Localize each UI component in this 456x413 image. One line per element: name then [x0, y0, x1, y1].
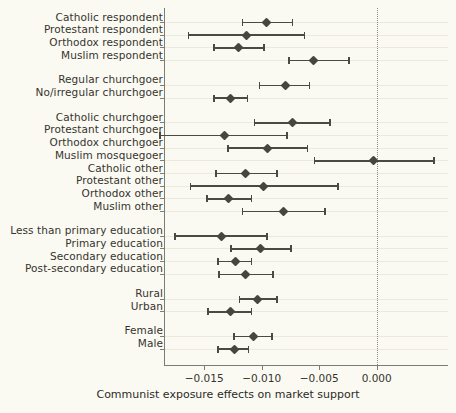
category-label: Regular churchgoer [58, 74, 163, 85]
category-label: Protestant other [76, 175, 163, 186]
point-estimate-marker [287, 118, 297, 128]
category-label: Post-secondary education [25, 263, 163, 274]
ci-cap-high [251, 258, 253, 265]
ci-cap-low [242, 19, 244, 26]
estimate-row [164, 299, 448, 300]
ci-cap-low [188, 32, 190, 39]
category-label: No/irregular churchgoer [36, 87, 164, 98]
ci-cap-low [174, 233, 176, 240]
point-estimate-marker [278, 207, 288, 217]
ci-cap-high [247, 95, 249, 102]
estimate-row [164, 249, 448, 250]
ci-cap-high [304, 32, 306, 39]
point-estimate-marker [249, 332, 259, 342]
ci-cap-low [213, 44, 215, 51]
x-axis-label: Communist exposure effects on market sup… [0, 388, 456, 401]
estimate-row [164, 61, 448, 62]
x-axis-tick [377, 366, 378, 370]
point-estimate-marker [253, 294, 263, 304]
ci-cap-low [314, 157, 316, 164]
category-label: Protestant respondent [44, 24, 163, 35]
ci-cap-high [251, 195, 253, 202]
point-estimate-marker [280, 80, 290, 90]
point-estimate-marker [241, 30, 251, 40]
ci-cap-low [159, 132, 161, 139]
x-axis-tick-label: −0.010 [242, 372, 281, 384]
point-estimate-marker [229, 344, 239, 354]
ci-cap-high [309, 82, 311, 89]
x-axis-tick [204, 366, 205, 370]
category-label: Catholic respondent [56, 12, 163, 23]
point-estimate-marker [230, 257, 240, 267]
ci-cap-low [213, 95, 215, 102]
x-axis-tick-label: 0.000 [362, 372, 392, 384]
ci-cap-low [218, 271, 220, 278]
category-label: Protestant churchgoer [44, 124, 163, 135]
estimate-row [164, 349, 448, 350]
ci-cap-low [217, 346, 219, 353]
estimate-row [164, 274, 448, 275]
estimate-row [164, 123, 448, 124]
estimate-row [164, 161, 448, 162]
x-axis-tick [319, 366, 320, 370]
point-estimate-marker [216, 231, 226, 241]
category-label: Orthodox churchgoer [50, 137, 163, 148]
category-label: Secondary education [50, 251, 163, 262]
ci-cap-low [207, 308, 209, 315]
point-estimate-marker [262, 18, 272, 28]
confidence-interval-bar [289, 60, 349, 62]
ci-cap-low [227, 145, 229, 152]
ci-cap-low [254, 119, 256, 126]
ci-cap-low [233, 333, 235, 340]
ci-cap-high [266, 233, 268, 240]
estimate-row [164, 236, 448, 237]
ci-cap-high [286, 132, 288, 139]
ci-cap-high [276, 296, 278, 303]
ci-cap-high [263, 44, 265, 51]
ci-cap-high [271, 333, 273, 340]
point-estimate-marker [225, 93, 235, 103]
point-estimate-marker [223, 194, 233, 204]
estimate-row [164, 98, 448, 99]
estimate-row [164, 148, 448, 149]
category-label: Less than primary education [10, 225, 163, 236]
estimate-row [164, 262, 448, 263]
ci-cap-low [217, 258, 219, 265]
estimate-row [164, 312, 448, 313]
category-label: Muslim other [93, 201, 163, 212]
ci-cap-low [288, 57, 290, 64]
point-estimate-marker [309, 56, 319, 66]
category-label: Rural [135, 288, 163, 299]
x-axis-line [164, 365, 448, 366]
x-axis-tick-label: −0.015 [185, 372, 224, 384]
ci-cap-high [290, 245, 292, 252]
ci-cap-high [324, 208, 326, 215]
ci-cap-low [215, 170, 217, 177]
point-estimate-marker [233, 43, 243, 53]
point-estimate-marker [225, 307, 235, 317]
estimate-row [164, 186, 448, 187]
estimate-row [164, 336, 448, 337]
category-label: Catholic other [88, 163, 163, 174]
estimate-row [164, 212, 448, 213]
estimate-row [164, 48, 448, 49]
ci-cap-high [329, 119, 331, 126]
category-label: Primary education [65, 238, 163, 249]
ci-cap-low [242, 208, 244, 215]
ci-cap-high [307, 145, 309, 152]
estimate-row [164, 35, 448, 36]
ci-cap-high [433, 157, 435, 164]
point-estimate-marker [240, 269, 250, 279]
ci-cap-low [239, 296, 241, 303]
estimate-row [164, 199, 448, 200]
category-label: Catholic churchgoer [56, 112, 163, 123]
ci-cap-low [206, 195, 208, 202]
ci-cap-low [230, 245, 232, 252]
category-label: Muslim mosquegoer [55, 150, 163, 161]
ci-cap-high [248, 346, 250, 353]
estimate-row [164, 23, 448, 24]
plot-panel: −0.015−0.010−0.0050.000 [164, 8, 448, 365]
estimate-row [164, 85, 448, 86]
category-label: Orthodox respondent [49, 37, 163, 48]
point-estimate-marker [219, 131, 229, 141]
